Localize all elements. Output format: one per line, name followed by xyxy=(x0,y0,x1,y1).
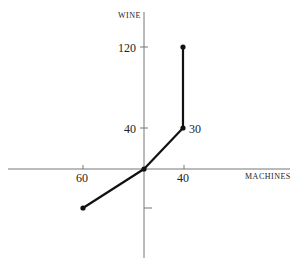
point-annotation-30: 30 xyxy=(189,122,201,136)
x-tick-label-40: 40 xyxy=(177,171,189,185)
x-tick-label-60: 60 xyxy=(76,171,88,185)
y-axis-title: WINE xyxy=(118,11,141,20)
point-corner xyxy=(180,125,185,130)
y-tick-label-120: 120 xyxy=(118,41,136,55)
point-top xyxy=(180,44,185,49)
point-lower-left xyxy=(80,205,85,210)
y-tick-label-40: 40 xyxy=(124,122,136,136)
chart-canvas: WINE 120 40 60 40 MACHINES 30 xyxy=(0,0,296,264)
point-origin xyxy=(141,166,146,171)
x-axis-title: MACHINES xyxy=(245,172,291,181)
